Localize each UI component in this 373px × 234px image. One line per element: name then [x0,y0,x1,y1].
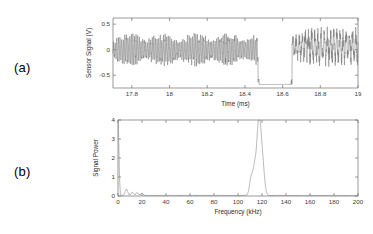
svg-text:18.8: 18.8 [314,90,327,97]
svg-text:3: 3 [112,135,116,142]
time-domain-plot: 17.81818.218.418.618.8190.50-0.5 Time (m… [0,0,373,112]
svg-text:0.5: 0.5 [101,20,110,27]
svg-text:60: 60 [187,198,194,205]
signal-power-trace [118,120,358,196]
y-axis-title-b: Signal Power [92,138,100,177]
svg-text:17.8: 17.8 [126,90,139,97]
svg-text:20: 20 [139,198,146,205]
svg-text:0: 0 [116,198,120,205]
svg-text:200: 200 [353,198,364,205]
chart-panel-a: 17.81818.218.418.618.8190.50-0.5 Time (m… [0,0,373,112]
chart-panel-b: 02040608010012014016018020001234 Frequen… [0,106,373,234]
svg-text:0: 0 [112,192,116,199]
sensor-signal-trace [113,27,358,85]
svg-text:120: 120 [257,198,268,205]
svg-text:100: 100 [233,198,244,205]
x-axis-title-b: Frequency (kHz) [214,208,261,216]
svg-text:40: 40 [163,198,170,205]
svg-text:19: 19 [355,90,362,97]
svg-text:80: 80 [211,198,218,205]
svg-text:18.4: 18.4 [239,90,252,97]
svg-text:18.6: 18.6 [277,90,290,97]
svg-text:18.2: 18.2 [201,90,214,97]
svg-text:160: 160 [305,198,316,205]
axes-panel-b [118,120,358,196]
svg-text:-0.5: -0.5 [99,71,110,78]
svg-text:1: 1 [112,173,116,180]
y-axis-title-a: Sensor Signal (V) [85,28,93,78]
tick-labels-panel-b: 02040608010012014016018020001234 [112,116,364,205]
svg-text:140: 140 [281,198,292,205]
svg-text:18: 18 [166,90,173,97]
svg-text:2: 2 [112,154,116,161]
power-spectrum-plot: 02040608010012014016018020001234 Frequen… [0,106,373,234]
svg-text:180: 180 [329,198,340,205]
svg-text:4: 4 [112,116,116,123]
svg-text:0: 0 [107,46,111,53]
